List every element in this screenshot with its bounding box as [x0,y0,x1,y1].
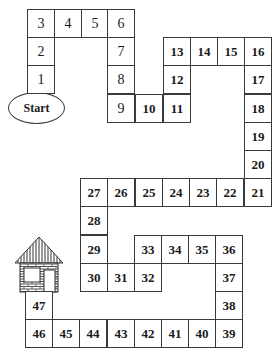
board-cell-28: 28 [80,206,108,235]
board-cell-37: 37 [215,263,243,292]
board-cell-35: 35 [188,235,216,264]
board-cell-38: 38 [215,291,243,320]
board-cell-7: 7 [107,37,135,66]
game-board: Start 1234567891011121314151617181920212… [0,0,279,362]
board-cell-32: 32 [134,263,162,292]
board-cell-27: 27 [80,178,108,207]
board-cell-21: 21 [244,178,272,207]
board-cell-23: 23 [189,178,217,207]
board-cell-12: 12 [163,65,191,94]
board-cell-26: 26 [107,178,135,207]
house-icon [14,236,64,294]
board-cell-13: 13 [163,37,191,66]
board-cell-14: 14 [190,37,218,66]
board-cell-41: 41 [161,319,189,348]
board-cell-29: 29 [80,235,108,264]
board-cell-30: 30 [80,263,108,292]
board-cell-25: 25 [135,178,163,207]
board-cell-44: 44 [79,319,107,348]
board-cell-1: 1 [27,65,55,94]
board-cell-24: 24 [162,178,190,207]
board-cell-16: 16 [244,37,272,66]
board-cell-46: 46 [25,319,53,348]
board-cell-5: 5 [81,9,109,38]
board-cell-2: 2 [27,37,55,66]
start-label: Start [24,101,50,116]
board-cell-3: 3 [27,9,55,38]
board-cell-4: 4 [54,9,82,38]
board-cell-8: 8 [107,65,135,94]
board-cell-9: 9 [107,94,135,123]
board-cell-42: 42 [134,319,162,348]
board-cell-47: 47 [25,291,53,320]
board-cell-11: 11 [163,94,191,123]
board-cell-6: 6 [107,9,135,38]
start-oval: Start [8,92,65,124]
board-cell-40: 40 [188,319,216,348]
board-cell-22: 22 [216,178,244,207]
board-cell-18: 18 [244,94,272,123]
board-cell-33: 33 [134,235,162,264]
board-cell-31: 31 [107,263,135,292]
board-cell-34: 34 [161,235,189,264]
board-cell-39: 39 [215,319,243,348]
board-cell-43: 43 [107,319,135,348]
board-cell-19: 19 [244,122,272,151]
board-cell-17: 17 [244,65,272,94]
board-cell-10: 10 [135,94,163,123]
board-cell-20: 20 [244,150,272,179]
board-cell-15: 15 [217,37,245,66]
board-cell-36: 36 [215,235,243,264]
board-cell-45: 45 [52,319,80,348]
